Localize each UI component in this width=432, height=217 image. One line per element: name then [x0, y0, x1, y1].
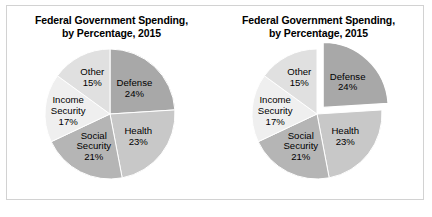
- figure-container: Federal Government Spending, by Percenta…: [6, 5, 424, 200]
- pie-chart-left: Defense24%Health23%SocialSecurity21%Inco…: [7, 6, 216, 199]
- chart-panel-right: Federal Government Spending, by Percenta…: [214, 6, 423, 199]
- pie-svg-left: Defense24%Health23%SocialSecurity21%Inco…: [7, 6, 216, 199]
- pie-svg-right: Defense24%Health23%SocialSecurity21%Inco…: [214, 6, 423, 199]
- pie-slice-label-other: Other15%: [80, 66, 105, 88]
- chart-panel-left: Federal Government Spending, by Percenta…: [7, 6, 216, 199]
- pie-chart-right: Defense24%Health23%SocialSecurity21%Inco…: [214, 6, 423, 199]
- pie-slice-label-other: Other15%: [287, 66, 312, 88]
